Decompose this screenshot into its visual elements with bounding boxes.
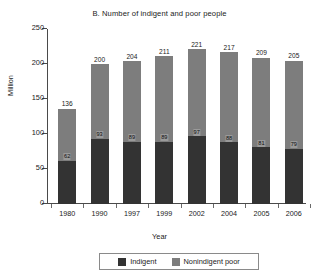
legend-swatch-indigent <box>118 258 126 266</box>
y-tick-label: 0 <box>40 198 44 207</box>
x-tick-mark <box>83 204 84 208</box>
x-tick-mark <box>245 204 246 208</box>
chart-container: B. Number of indigent and poor people Mi… <box>0 0 319 278</box>
y-tick-label: 50 <box>36 163 44 172</box>
x-tick-label: 1997 <box>116 209 148 218</box>
bar-stack[interactable]: 20093 <box>91 64 109 204</box>
y-tick-label: 100 <box>32 128 44 137</box>
y-tick: 100 <box>47 133 48 134</box>
y-tick-label: 250 <box>32 23 44 32</box>
bar-segment-nonindigent-poor[interactable] <box>91 64 109 139</box>
x-tick-mark <box>278 204 279 208</box>
bar-segment-nonindigent-poor[interactable] <box>285 61 303 149</box>
y-tick: 150 <box>47 98 48 99</box>
bar-indigent-value-label: 89 <box>128 134 135 141</box>
bar-indigent-value-label: 88 <box>225 135 232 142</box>
bar-stack[interactable]: 13662 <box>58 109 76 204</box>
plot-area: 050100150200250 136622009320489211892219… <box>47 29 306 204</box>
bar-stack[interactable]: 20489 <box>123 61 141 204</box>
legend-swatch-nonindigent-poor <box>172 258 180 266</box>
x-tick-label: 2002 <box>181 209 213 218</box>
bar-segment-nonindigent-poor[interactable] <box>220 52 238 142</box>
y-tick: 50 <box>47 168 48 169</box>
y-tick: 0 <box>47 203 48 204</box>
bar-indigent-value-label: 93 <box>96 131 103 138</box>
bar-segment-indigent[interactable] <box>91 139 109 204</box>
bar-stack[interactable]: 20981 <box>252 58 270 204</box>
chart-title: B. Number of indigent and poor people <box>0 9 319 18</box>
legend-item-nonindigent-poor: Nonindigent poor <box>172 257 240 266</box>
x-tick-label: 2004 <box>213 209 245 218</box>
bar-segment-indigent[interactable] <box>155 142 173 204</box>
x-tick-mark <box>148 204 149 208</box>
bar-total-label: 221 <box>191 41 202 48</box>
y-tick-label: 150 <box>32 93 44 102</box>
bar-stack[interactable]: 21189 <box>155 56 173 204</box>
bar-stack[interactable]: 22197 <box>188 49 206 204</box>
bar-stack[interactable]: 20579 <box>285 61 303 205</box>
bar-total-label: 205 <box>288 52 299 59</box>
bar-total-label: 136 <box>62 100 73 107</box>
bar-total-label: 211 <box>159 48 170 55</box>
bar-total-label: 209 <box>256 49 267 56</box>
bar-segment-indigent[interactable] <box>58 161 76 204</box>
bar-segment-nonindigent-poor[interactable] <box>252 58 270 148</box>
legend-item-indigent: Indigent <box>118 257 156 266</box>
bar-total-label: 200 <box>94 56 105 63</box>
y-tick: 200 <box>47 63 48 64</box>
bar-segment-nonindigent-poor[interactable] <box>123 61 141 142</box>
x-tick-mark <box>51 204 52 208</box>
x-tick-mark <box>213 204 214 208</box>
bar-segment-indigent[interactable] <box>220 142 238 204</box>
bar-segment-indigent[interactable] <box>252 147 270 204</box>
bar-segment-indigent[interactable] <box>188 136 206 204</box>
bar-segment-indigent[interactable] <box>285 149 303 204</box>
x-tick-label: 1999 <box>148 209 180 218</box>
x-tick-mark <box>181 204 182 208</box>
bar-indigent-value-label: 89 <box>161 134 168 141</box>
bar-indigent-value-label: 81 <box>258 140 265 147</box>
bar-indigent-value-label: 97 <box>193 129 200 136</box>
x-tick-label: 2005 <box>245 209 277 218</box>
bar-total-label: 217 <box>224 44 235 51</box>
x-tick-label: 1980 <box>51 209 83 218</box>
y-tick: 250 <box>47 28 48 29</box>
bar-segment-nonindigent-poor[interactable] <box>188 49 206 136</box>
bar-indigent-value-label: 62 <box>64 153 71 160</box>
bar-segment-indigent[interactable] <box>123 142 141 204</box>
bar-indigent-value-label: 79 <box>290 141 297 148</box>
bar-stack[interactable]: 21788 <box>220 52 238 204</box>
legend: Indigent Nonindigent poor <box>99 253 259 270</box>
bar-segment-nonindigent-poor[interactable] <box>155 56 173 141</box>
legend-label-nonindigent-poor: Nonindigent poor <box>184 257 240 266</box>
legend-label-indigent: Indigent <box>130 257 156 266</box>
x-tick-label: 2006 <box>278 209 310 218</box>
bar-total-label: 204 <box>126 53 137 60</box>
x-tick-mark <box>310 204 311 208</box>
y-axis-label: Million <box>6 75 15 96</box>
x-tick-mark <box>116 204 117 208</box>
x-axis-label: Year <box>0 232 319 241</box>
y-axis-line <box>47 29 48 204</box>
x-tick-label: 1990 <box>84 209 116 218</box>
y-tick-label: 200 <box>32 58 44 67</box>
